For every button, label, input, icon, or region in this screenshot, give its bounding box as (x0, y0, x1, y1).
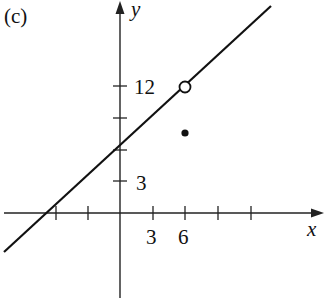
panel-label: (c) (4, 4, 27, 28)
line-y-equals-x-plus-6 (4, 6, 271, 252)
y-axis-label: y (129, 0, 141, 21)
x-tick-label-3: 3 (146, 225, 157, 249)
x-tick-label-6: 6 (178, 225, 189, 249)
y-tick-label-12: 12 (134, 75, 155, 99)
graph-canvas: (c) y x 12 3 3 6 (0, 0, 324, 301)
y-tick-label-3: 3 (136, 171, 147, 195)
x-axis-label: x (306, 217, 317, 241)
open-circle-point (180, 82, 191, 93)
filled-dot-point (181, 129, 188, 136)
y-axis-arrow-icon (116, 1, 125, 14)
